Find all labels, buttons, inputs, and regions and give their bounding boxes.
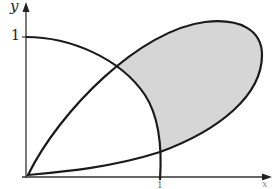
x-axis-label: x — [262, 178, 268, 189]
x-tick-label: 1 — [157, 180, 163, 189]
shaded-region — [28, 21, 262, 175]
y-axis-label: y — [10, 0, 18, 15]
y-axis-arrow-icon — [23, 2, 30, 12]
region-diagram — [0, 0, 274, 189]
y-tick-label: 1 — [11, 27, 20, 43]
